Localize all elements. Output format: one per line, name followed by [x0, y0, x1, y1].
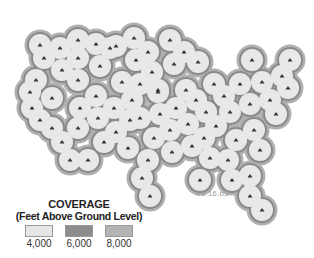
- legend-item-4000: 4,000: [24, 225, 54, 249]
- legend-title: COVERAGE: [4, 198, 154, 210]
- swatch-6000: [65, 225, 93, 237]
- legend-label: 6,000: [66, 238, 91, 249]
- legend-label: 4,000: [26, 238, 51, 249]
- legend-item-6000: 6,000: [64, 225, 94, 249]
- swatch-8000: [105, 225, 133, 237]
- legend-item-8000: 8,000: [104, 225, 134, 249]
- legend-label: 8,000: [106, 238, 131, 249]
- swatch-4000: [25, 225, 53, 237]
- graphic-code: 05.16.b3: [196, 189, 229, 198]
- legend-swatches: 4,000 6,000 8,000: [4, 225, 154, 249]
- legend-subtitle: (Feet Above Ground Level): [4, 210, 154, 222]
- legend: COVERAGE (Feet Above Ground Level) 4,000…: [4, 198, 154, 249]
